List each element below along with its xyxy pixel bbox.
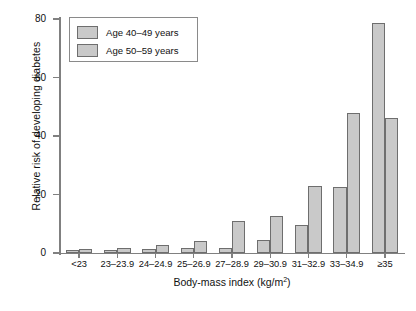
x-axis-tick <box>117 253 118 258</box>
bar <box>142 249 155 253</box>
x-axis-tick-label: ≥35 <box>377 259 392 269</box>
bar <box>156 245 169 253</box>
x-axis-tick-label: 23–23.9 <box>101 259 135 269</box>
legend-swatch <box>77 26 98 39</box>
y-axis-tick <box>53 77 59 78</box>
bar <box>257 240 270 253</box>
legend-swatch <box>77 44 98 57</box>
x-axis-tick <box>155 253 156 258</box>
y-axis-title: Relative risk of developing diabetes <box>30 6 42 246</box>
bar <box>181 248 194 253</box>
bar <box>117 248 130 253</box>
x-axis-tick <box>270 253 271 258</box>
x-axis-tick <box>193 253 194 258</box>
bar <box>347 113 360 253</box>
legend-item: Age 40–49 years <box>77 24 179 40</box>
x-axis-tick <box>78 253 79 258</box>
x-axis-title-tail: ) <box>287 276 291 288</box>
x-axis-tick <box>346 253 347 258</box>
legend-label: Age 50–59 years <box>106 45 179 56</box>
y-axis-tick <box>53 18 59 19</box>
x-axis-tick <box>308 253 309 258</box>
bar <box>385 118 398 253</box>
y-axis-tick-label: 80 <box>8 13 46 24</box>
chart-figure: Relative risk of developing diabetes 020… <box>0 0 416 311</box>
y-axis-tick-label: 20 <box>8 189 46 200</box>
x-axis-tick-label: 25–26.9 <box>177 259 211 269</box>
x-axis-tick <box>384 253 385 258</box>
bar <box>104 250 117 253</box>
y-axis-tick-label: 60 <box>8 72 46 83</box>
bar <box>270 216 283 253</box>
x-axis-tick-label: 24–24.9 <box>139 259 173 269</box>
bar <box>372 23 385 253</box>
y-axis-tick-label: 40 <box>8 130 46 141</box>
bar <box>295 225 308 253</box>
bar <box>194 241 207 253</box>
x-axis-tick-label: 27–28.9 <box>215 259 249 269</box>
bar <box>308 186 321 253</box>
bar <box>219 248 232 253</box>
legend-item: Age 50–59 years <box>77 42 179 58</box>
y-axis-tick <box>53 252 59 253</box>
chart-legend: Age 40–49 yearsAge 50–59 years <box>69 17 198 62</box>
bar <box>333 187 346 253</box>
bar <box>66 250 79 253</box>
y-axis-tick <box>53 135 59 136</box>
y-axis-tick <box>53 194 59 195</box>
x-axis-title: Body-mass index (kg/m2) <box>60 276 404 288</box>
x-axis-tick-label: 29–30.9 <box>253 259 287 269</box>
y-axis-tick-label: 0 <box>8 247 46 258</box>
x-axis-tick <box>231 253 232 258</box>
legend-label: Age 40–49 years <box>106 27 179 38</box>
bar <box>79 249 92 253</box>
x-axis-title-base: Body-mass index (kg/m <box>173 276 283 288</box>
bar <box>232 221 245 253</box>
x-axis-tick-label: 33–34.9 <box>330 259 364 269</box>
x-axis-tick-label: 31–32.9 <box>292 259 326 269</box>
x-axis-tick-label: <23 <box>71 259 87 269</box>
